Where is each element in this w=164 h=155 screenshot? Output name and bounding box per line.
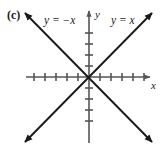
line-label-y-equals-x: y = x [111, 15, 135, 27]
coordinate-plane-graphic [0, 0, 164, 155]
math-figure-panel: (c) [0, 0, 164, 155]
line-label-y-equals-negative-x: y = −x [44, 15, 75, 27]
y-axis-label: y [95, 9, 100, 20]
x-axis-label: x [151, 80, 156, 91]
